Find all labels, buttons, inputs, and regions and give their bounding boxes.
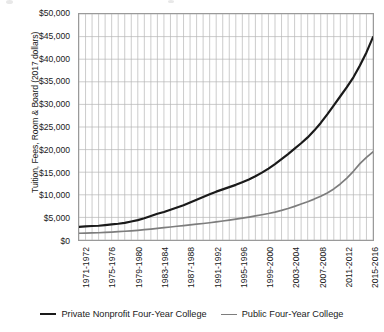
x-axis-tick-label: 1995-1996	[240, 247, 249, 288]
x-axis-tick-label: 1987-1988	[187, 247, 196, 288]
legend-line-swatch-icon	[221, 314, 237, 315]
legend-item-label: Public Four-Year College	[242, 309, 344, 319]
legend-line-swatch-icon	[40, 313, 56, 315]
legend-item: Public Four-Year College	[221, 309, 344, 319]
x-axis-tick-label: 2011-2012	[345, 247, 354, 287]
x-axis-tick-label: 2007-2008	[319, 247, 328, 288]
legend-item-label: Private Nonprofit Four-Year College	[61, 309, 206, 319]
x-axis-tick-label: 2003-2004	[292, 247, 301, 288]
x-axis-tick-label: 1991-1992	[214, 247, 223, 288]
chart-legend: Private Nonprofit Four-Year CollegePubli…	[0, 309, 384, 319]
x-axis-tick-label: 1971-1972	[82, 247, 91, 288]
x-axis-tick-label: 1979-1980	[135, 247, 144, 288]
tuition-line-chart: Tuition, Fees, Room & Board (2017 dollar…	[0, 0, 384, 332]
x-axis-tick-label: 1999-2000	[266, 247, 275, 288]
x-axis-tick-labels: 1971-19721975-19761979-19801983-19841987…	[0, 0, 384, 332]
x-axis-tick-label: 1983-1984	[161, 247, 170, 288]
legend-item: Private Nonprofit Four-Year College	[40, 309, 206, 319]
x-axis-tick-label: 1975-1976	[108, 247, 117, 288]
x-axis-tick-label: 2015-2016	[371, 247, 380, 288]
